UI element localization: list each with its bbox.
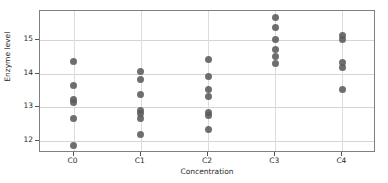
data-point bbox=[272, 14, 279, 21]
data-point bbox=[137, 91, 144, 98]
x-tick-label-C2: C2 bbox=[202, 157, 212, 165]
y-tick-mark-15 bbox=[35, 39, 39, 40]
plot-panel bbox=[39, 10, 375, 152]
data-point bbox=[205, 73, 212, 80]
x-tick-label-C0: C0 bbox=[68, 157, 78, 165]
x-tick-label-C1: C1 bbox=[135, 157, 145, 165]
data-point bbox=[70, 58, 77, 65]
x-tick-mark-C3 bbox=[274, 152, 275, 156]
y-tick-label-14: 14 bbox=[23, 69, 33, 77]
data-point bbox=[339, 86, 346, 93]
data-point bbox=[272, 60, 279, 67]
data-point bbox=[70, 115, 77, 122]
data-point bbox=[272, 53, 279, 60]
y-tick-mark-13 bbox=[35, 106, 39, 107]
data-point bbox=[70, 142, 77, 149]
x-tick-mark-C2 bbox=[207, 152, 208, 156]
data-point bbox=[272, 46, 279, 53]
gridline-x-C0 bbox=[74, 11, 75, 151]
data-point bbox=[272, 36, 279, 43]
gridline-x-C3 bbox=[275, 11, 276, 151]
data-point bbox=[205, 93, 212, 100]
data-point bbox=[339, 64, 346, 71]
x-axis-label: Concentration bbox=[39, 168, 375, 176]
data-point bbox=[70, 82, 77, 89]
data-point bbox=[137, 76, 144, 83]
y-tick-label-13: 13 bbox=[23, 102, 33, 110]
data-point bbox=[70, 99, 77, 106]
data-point bbox=[205, 112, 212, 119]
x-tick-mark-C4 bbox=[341, 152, 342, 156]
data-point bbox=[137, 131, 144, 138]
data-point bbox=[205, 86, 212, 93]
data-point bbox=[205, 56, 212, 63]
data-point bbox=[205, 126, 212, 133]
gridline-y-15 bbox=[40, 40, 374, 41]
y-tick-label-12: 12 bbox=[23, 136, 33, 144]
y-axis-tick-labels: 12131415 bbox=[0, 0, 33, 183]
x-tick-mark-C0 bbox=[73, 152, 74, 156]
x-tick-mark-C1 bbox=[140, 152, 141, 156]
gridline-y-12 bbox=[40, 141, 374, 142]
data-point bbox=[137, 115, 144, 122]
y-tick-mark-14 bbox=[35, 73, 39, 74]
data-point bbox=[272, 24, 279, 31]
y-tick-label-15: 15 bbox=[23, 35, 33, 43]
x-tick-label-C3: C3 bbox=[269, 157, 279, 165]
y-tick-mark-12 bbox=[35, 140, 39, 141]
data-point bbox=[339, 36, 346, 43]
scatter-plot-figure: Enzyme level 12131415 C0C1C2C3C4 Concent… bbox=[0, 0, 388, 183]
x-tick-label-C4: C4 bbox=[336, 157, 346, 165]
